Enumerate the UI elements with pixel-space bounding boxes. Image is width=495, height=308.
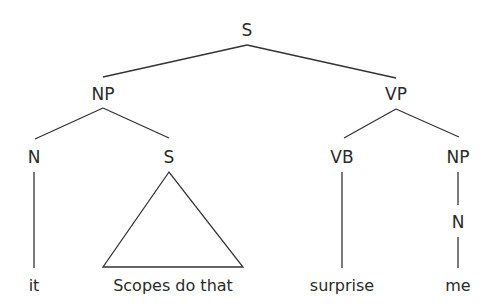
- node-vb: VB: [330, 149, 353, 166]
- node-n-object: N: [452, 214, 465, 231]
- edge-vp-vb: [344, 109, 396, 138]
- node-s-root: S: [242, 22, 253, 39]
- edge-np-n: [35, 108, 103, 139]
- node-s-embedded: S: [164, 149, 175, 166]
- edge-vp-np: [396, 109, 459, 137]
- leaf-surprise: surprise: [310, 278, 374, 294]
- node-n-subject: N: [28, 149, 41, 166]
- node-vp: VP: [385, 86, 407, 103]
- node-np: NP: [92, 86, 115, 103]
- leaf-scopes-do-that: Scopes do that: [113, 278, 233, 294]
- edge-np-s: [103, 108, 169, 138]
- triangle-subtree: [103, 172, 243, 267]
- leaf-it: it: [29, 278, 40, 294]
- edge-s-vp: [247, 45, 396, 78]
- leaf-me: me: [445, 278, 470, 294]
- edge-s-np: [103, 45, 247, 77]
- tree-edges: [0, 0, 495, 308]
- node-np-object: NP: [447, 149, 470, 166]
